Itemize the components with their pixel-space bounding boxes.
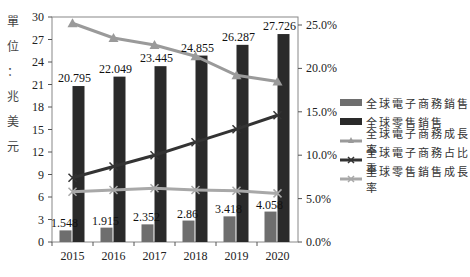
left-tick-label: 12 [32, 145, 44, 159]
x-tick-label: 2015 [61, 249, 85, 263]
bar-label-ecommerce: 2.352 [133, 210, 160, 224]
bar-ecommerce-sales [183, 221, 195, 242]
left-tick-label: 30 [32, 10, 44, 24]
right-tick-label: 10.0% [306, 148, 337, 162]
left-tick-label: 24 [32, 55, 44, 69]
bar-label-retail: 24.855 [181, 41, 214, 55]
left-tick-label: 3 [38, 213, 44, 227]
legend-line-swatch-icon [340, 173, 362, 185]
x-tick-label: 2016 [102, 249, 126, 263]
legend-bar-swatch-icon [340, 118, 362, 125]
x-tick-label: 2017 [143, 249, 167, 263]
left-tick-label: 6 [38, 190, 44, 204]
bar-label-retail: 27.726 [263, 19, 296, 33]
right-tick-label: 25.0% [306, 18, 337, 32]
legend-bar-swatch-icon [340, 99, 362, 106]
bar-label-ecommerce: 4.058 [256, 198, 283, 212]
left-tick-label: 15 [32, 123, 44, 137]
bar-label-ecommerce: 1.915 [92, 214, 119, 228]
bar-ecommerce-sales [101, 228, 113, 242]
right-tick-label: 0.0% [306, 235, 331, 249]
right-tick-label: 15.0% [306, 105, 337, 119]
bar-label-ecommerce: 3.418 [215, 202, 242, 216]
left-tick-label: 0 [38, 235, 44, 249]
bar-ecommerce-sales [224, 216, 236, 242]
left-tick-label: 9 [38, 168, 44, 182]
bar-label-retail: 26.287 [222, 30, 255, 44]
right-tick-label: 20.0% [306, 61, 337, 75]
legend: 全球電子商務銷售全球零售銷售全球電子商務成長率全球電子商務占比重全球零售銷售成長… [340, 93, 470, 188]
bar-ecommerce-sales [142, 224, 154, 242]
legend-label: 全球電子商務銷售 [366, 95, 470, 111]
left-tick-label: 21 [32, 78, 44, 92]
legend-line-swatch-icon [340, 154, 362, 166]
bar-label-ecommerce: 2.86 [177, 207, 198, 221]
bar-ecommerce-sales [60, 230, 72, 242]
bar-ecommerce-sales [265, 212, 277, 242]
x-tick-label: 2020 [266, 249, 290, 263]
legend-label: 全球零售銷售成長率 [366, 163, 470, 195]
left-tick-label: 27 [32, 33, 44, 47]
bar-label-ecommerce: 1.548 [51, 216, 78, 230]
x-tick-label: 2019 [225, 249, 249, 263]
bar-label-retail: 23.445 [140, 51, 173, 65]
bar-label-retail: 20.795 [58, 71, 91, 85]
legend-line-swatch-icon [340, 135, 362, 147]
legend-item: 全球電子商務銷售 [340, 93, 470, 112]
triangle-marker [68, 18, 78, 27]
x-tick-label: 2018 [184, 249, 208, 263]
bar-label-retail: 22.049 [99, 62, 132, 76]
left-tick-label: 18 [32, 100, 44, 114]
legend-item: 全球零售銷售成長率 [340, 169, 470, 188]
right-tick-label: 5.0% [306, 192, 331, 206]
